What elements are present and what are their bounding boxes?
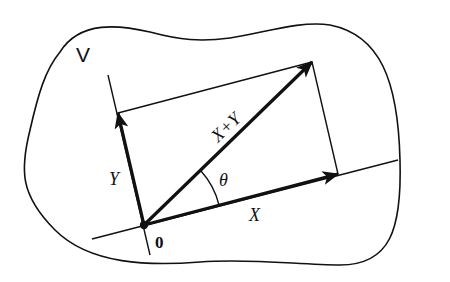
vector-y-label: Y bbox=[109, 169, 121, 189]
parallelogram-top-side bbox=[118, 62, 312, 113]
angle-label: θ bbox=[219, 170, 228, 190]
space-label: V bbox=[76, 43, 90, 66]
vector-sum-label: X+Y bbox=[206, 107, 246, 146]
vector-space-diagram: V 0 Y X X+Y θ bbox=[0, 0, 450, 282]
vector-sum-arrow bbox=[144, 62, 312, 225]
vector-x-arrow bbox=[144, 174, 338, 225]
vector-x-label: X bbox=[248, 205, 261, 225]
origin-label: 0 bbox=[155, 233, 164, 252]
origin-point bbox=[140, 221, 148, 229]
vector-y-arrow bbox=[118, 113, 144, 225]
angle-arc bbox=[201, 171, 219, 205]
parallelogram-right-side bbox=[312, 62, 338, 174]
